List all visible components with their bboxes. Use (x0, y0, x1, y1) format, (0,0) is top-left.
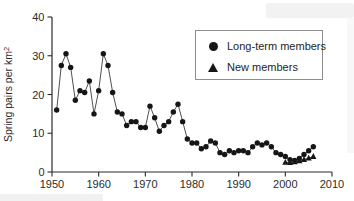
data-point-circle (91, 111, 96, 116)
data-point-circle (208, 138, 213, 143)
data-point-circle (213, 140, 218, 145)
data-point-circle (264, 140, 269, 145)
data-point-circle (82, 90, 87, 95)
data-point-circle (68, 65, 73, 70)
data-point-circle (241, 148, 246, 153)
figure-population-trend: 1950196019701980199020002010010203040Spr… (0, 0, 354, 201)
data-point-circle (227, 148, 232, 153)
data-point-circle (73, 98, 78, 103)
x-tick-label-2000: 2000 (273, 178, 297, 190)
data-point-circle (194, 140, 199, 145)
data-point-circle (119, 111, 124, 116)
data-point-circle (63, 51, 68, 56)
data-point-circle (161, 123, 166, 128)
circle-marker-icon (207, 42, 219, 51)
scan-artifact-right-edge (347, 18, 354, 153)
data-point-circle (283, 154, 288, 159)
data-point-circle (171, 109, 176, 114)
data-point-circle (157, 129, 162, 134)
data-point-circle (101, 51, 106, 56)
data-point-circle (259, 142, 264, 147)
data-point-circle (185, 136, 190, 141)
data-point-circle (133, 119, 138, 124)
legend: Long-term members New members (195, 30, 323, 80)
triangle-marker-icon (207, 63, 219, 72)
data-point-circle (199, 146, 204, 151)
data-point-circle (306, 148, 311, 153)
y-tick-label-10: 10 (32, 127, 44, 139)
y-axis-title: Spring pairs per km2 (2, 47, 15, 142)
data-point-circle (273, 150, 278, 155)
legend-item-new-members: New members (207, 60, 298, 74)
scan-artifact-top-right (266, 3, 354, 18)
data-point-circle (245, 150, 250, 155)
x-tick-label-2010: 2010 (320, 178, 344, 190)
x-tick-label-1980: 1980 (180, 178, 204, 190)
data-point-circle (143, 125, 148, 130)
data-point-circle (129, 119, 134, 124)
data-point-circle (189, 140, 194, 145)
data-point-circle (138, 125, 143, 130)
data-point-circle (59, 63, 64, 68)
y-tick-label-30: 30 (32, 50, 44, 62)
data-point-circle (269, 144, 274, 149)
data-point-circle (175, 101, 180, 106)
x-tick-label-1960: 1960 (86, 178, 110, 190)
data-point-circle (180, 119, 185, 124)
data-point-circle (222, 152, 227, 157)
data-point-circle (278, 152, 283, 157)
y-tick-label-20: 20 (32, 89, 44, 101)
data-point-circle (105, 63, 110, 68)
data-point-circle (203, 144, 208, 149)
data-point-circle (311, 144, 316, 149)
data-point-circle (115, 109, 120, 114)
data-point-circle (87, 78, 92, 83)
data-point-circle (77, 88, 82, 93)
data-point-circle (96, 88, 101, 93)
data-point-circle (250, 144, 255, 149)
data-point-triangle (310, 153, 316, 159)
data-point-circle (54, 107, 59, 112)
data-point-circle (231, 150, 236, 155)
data-point-circle (124, 123, 129, 128)
legend-label-new-members: New members (227, 61, 298, 73)
y-tick-label-40: 40 (32, 11, 44, 23)
legend-item-long-term: Long-term members (207, 39, 326, 53)
data-point-circle (255, 140, 260, 145)
y-tick-label-0: 0 (38, 166, 44, 178)
data-point-circle (217, 150, 222, 155)
x-tick-label-1950: 1950 (40, 178, 64, 190)
x-tick-label-1970: 1970 (133, 178, 157, 190)
data-point-circle (152, 115, 157, 120)
x-tick-label-1990: 1990 (226, 178, 250, 190)
data-point-circle (166, 119, 171, 124)
data-point-circle (236, 148, 241, 153)
data-point-circle (110, 90, 115, 95)
data-point-circle (147, 103, 152, 108)
scan-artifact-bottom-left (0, 194, 103, 201)
legend-label-long-term: Long-term members (227, 40, 326, 52)
